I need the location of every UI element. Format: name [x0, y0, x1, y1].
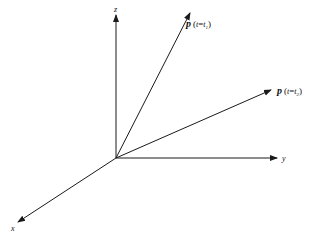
vector-p-t1-label: p(t=t1) — [185, 18, 211, 30]
vector-p-t2 — [116, 90, 271, 158]
x-axis-label: x — [10, 224, 15, 233]
y-axis-label: y — [281, 154, 286, 163]
x-axis — [18, 158, 116, 222]
vector-p-t1 — [116, 13, 190, 158]
z-axis-label: z — [113, 5, 118, 14]
coordinate-diagram: z y x p(t=t1) p(t=t2) — [0, 0, 315, 242]
vector-p-t2-label: p(t=t2) — [276, 85, 302, 97]
